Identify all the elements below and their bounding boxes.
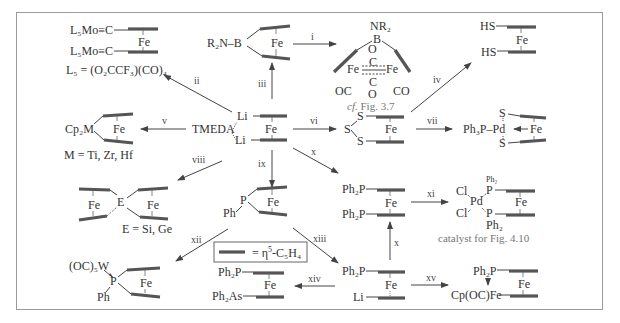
svg-text:Li: Li: [353, 290, 364, 304]
caption-cf: cf. Fig. 3.7: [347, 100, 395, 112]
svg-text:Ph₂P: Ph₂P: [342, 264, 366, 278]
svg-text:Ph₂: Ph₂: [486, 218, 503, 232]
svg-text:Cl: Cl: [456, 206, 468, 220]
svg-text:Fe: Fe: [264, 278, 276, 292]
label-xv: xv: [426, 272, 436, 283]
svg-text:CO: CO: [393, 84, 410, 98]
svg-text:Pd: Pd: [470, 194, 483, 208]
svg-text:Fe: Fe: [515, 195, 527, 209]
svg-text:Fe: Fe: [530, 122, 542, 136]
svg-text:Fe: Fe: [138, 35, 150, 49]
li-bottom: Li: [235, 133, 246, 147]
compound-pdcl2-dppf: Ph₂ P Cl Pd Fe Cl P Ph₂ catalyst for Fig…: [438, 175, 535, 244]
svg-text:S: S: [499, 136, 506, 150]
svg-text:E: E: [117, 195, 124, 209]
svg-text:Cl: Cl: [456, 184, 468, 198]
label-xiii: xiii: [313, 233, 327, 244]
svg-text:P: P: [486, 183, 493, 197]
center-dilithioferrocene: Li Fe Li TMEDA: [192, 109, 287, 147]
label-xii: xii: [191, 234, 202, 245]
reaction-scheme: Li Fe Li TMEDA L₅Mo≡C Fe L₅Mo≡C L₅ = (O₂…: [0, 0, 620, 323]
compound-w-phosphane: (OC)₅W P Fe Ph: [69, 259, 160, 304]
label-viii: viii: [192, 154, 206, 165]
svg-text:HS: HS: [481, 45, 496, 59]
compound-p-as: Ph₂P Fe Ph₂As: [212, 265, 284, 303]
svg-text:Ph: Ph: [223, 206, 236, 220]
svg-text:L₅ = (O₂CCF₃)(CO)₄: L₅ = (O₂CCF₃)(CO)₄: [66, 63, 167, 77]
svg-text:(OC)₅W: (OC)₅W: [69, 259, 110, 273]
svg-text:Ph₃P–Pd: Ph₃P–Pd: [463, 122, 505, 136]
compound-p-fe-cp: Ph₂P Fe Cp(OC)Fe: [451, 264, 538, 302]
svg-text:NR₂: NR₂: [370, 19, 391, 33]
caption-catalyst: catalyst for Fig. 4.10: [438, 232, 530, 244]
label-ix: ix: [258, 158, 266, 169]
label-i: i: [311, 31, 314, 42]
compound-p-li: Ph₂P Fe Li: [342, 264, 405, 304]
svg-text:Ph₂P: Ph₂P: [218, 265, 242, 279]
svg-text:Fe: Fe: [140, 276, 152, 290]
svg-text:Fe: Fe: [113, 122, 125, 136]
label-vi: vi: [310, 115, 318, 126]
label-x: x: [311, 146, 316, 157]
svg-text:Fe: Fe: [518, 277, 530, 291]
svg-text:OC: OC: [335, 84, 352, 98]
label-iv: iv: [433, 74, 441, 85]
svg-text:L₅Mo≡C: L₅Mo≡C: [70, 44, 113, 58]
label-xi: xi: [427, 188, 435, 199]
svg-text:Fe: Fe: [347, 62, 359, 76]
svg-text:S: S: [344, 122, 351, 136]
legend-text: = η5-C₅H₄: [252, 245, 301, 260]
svg-text:Fe: Fe: [88, 198, 100, 212]
fe-label: Fe: [265, 122, 277, 136]
svg-text:Fe: Fe: [267, 195, 279, 209]
compound-spiro: Fe E Fe E = Si, Ge: [79, 188, 172, 236]
svg-text:S: S: [357, 109, 364, 123]
label-iii: iii: [258, 78, 267, 89]
label-v: v: [162, 115, 167, 126]
compound-pd-complex: S Ph₃P–Pd Fe S: [463, 106, 546, 150]
li-top: Li: [237, 109, 248, 123]
label-ii: ii: [194, 75, 200, 86]
svg-text:L₅Mo≡C: L₅Mo≡C: [70, 23, 113, 37]
arrow-iv: [411, 63, 471, 112]
label-x-up: x: [394, 237, 399, 248]
svg-text:Fe: Fe: [271, 36, 283, 50]
svg-text:O: O: [368, 87, 377, 101]
compound-fe2-borane: NR₂ B O C Fe Fe C O OC CO cf. Fig. 3.7: [334, 19, 410, 112]
label-xiv: xiv: [308, 273, 321, 284]
compound-trisulfide: S S Fe S: [344, 109, 404, 148]
compound-phosphane: P Fe Ph: [223, 187, 287, 220]
svg-text:S: S: [357, 134, 364, 148]
svg-text:Fe: Fe: [386, 62, 398, 76]
svg-text:Ph₂P: Ph₂P: [473, 264, 497, 278]
label-vii: vii: [427, 115, 438, 126]
svg-text:Ph₂P: Ph₂P: [342, 207, 366, 221]
svg-text:Ph: Ph: [97, 290, 110, 304]
svg-text:Fe: Fe: [516, 33, 528, 47]
svg-text:P: P: [240, 193, 247, 207]
svg-text:Cp(OC)Fe: Cp(OC)Fe: [451, 288, 502, 302]
arrow-xii: [176, 229, 228, 261]
svg-text:Fe: Fe: [385, 278, 397, 292]
compound-dithiol: HS Fe HS: [480, 19, 536, 59]
svg-text:R₂N–B: R₂N–B: [207, 36, 242, 50]
compound-mo-carbyne: L₅Mo≡C Fe L₅Mo≡C L₅ = (O₂CCF₃)(CO)₄: [66, 23, 167, 77]
svg-text:Ph₂As: Ph₂As: [212, 289, 243, 303]
compound-dppf: Ph₂P Fe Ph₂P: [342, 182, 405, 221]
compound-borane: R₂N–B Fe: [207, 26, 290, 59]
svg-text:C: C: [369, 55, 377, 69]
svg-text:O: O: [368, 42, 377, 56]
svg-text:Cp₂M: Cp₂M: [65, 122, 94, 136]
svg-text:P: P: [110, 274, 117, 288]
svg-text:Ph₂P: Ph₂P: [342, 182, 366, 196]
compound-metallocenophane: Cp₂M Fe M = Ti, Zr, Hf: [64, 114, 133, 162]
svg-text:HS: HS: [480, 19, 495, 33]
legend-box: = η5-C₅H₄: [214, 242, 307, 262]
svg-text:E = Si, Ge: E = Si, Ge: [122, 222, 172, 236]
tmeda-label: TMEDA: [192, 122, 235, 136]
svg-text:Fe: Fe: [385, 196, 397, 210]
svg-text:Fe: Fe: [147, 198, 159, 212]
svg-text:Fe: Fe: [385, 122, 397, 136]
svg-text:M = Ti, Zr, Hf: M = Ti, Zr, Hf: [64, 148, 133, 162]
svg-text:S: S: [499, 106, 506, 120]
